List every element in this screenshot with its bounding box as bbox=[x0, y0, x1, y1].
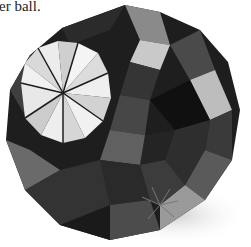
origami-ball-photo bbox=[0, 0, 251, 247]
caption-text: er ball. bbox=[0, 0, 41, 15]
page: er ball. bbox=[0, 0, 251, 247]
